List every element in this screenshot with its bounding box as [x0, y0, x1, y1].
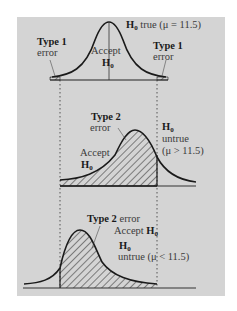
h0-subscript: 0	[155, 230, 159, 238]
type1-left-label: Type 1	[37, 36, 67, 47]
h0-subscript: 0	[110, 62, 114, 70]
top-title-condition: true (μ = 11.5)	[138, 19, 201, 30]
type1-right-error: error	[153, 51, 173, 62]
h0-symbol: H	[81, 159, 89, 170]
bottom-type2-label: Type 2 error	[87, 213, 140, 224]
h0-symbol: H	[162, 121, 170, 132]
bottom-accept-label: Accept H0	[114, 225, 158, 240]
middle-condition: (μ > 11.5)	[162, 145, 204, 156]
bottom-untrue-condition: untrue (μ < 11.5)	[118, 251, 189, 262]
type2-error: error	[117, 213, 140, 224]
type2-bold: Type 2	[87, 213, 117, 224]
middle-type2-error: error	[90, 122, 110, 133]
type1-left-error: error	[37, 47, 57, 58]
middle-untrue: untrue	[162, 133, 189, 144]
h0-symbol: H	[126, 19, 134, 30]
h0-symbol: H	[119, 240, 127, 251]
middle-accept-label: Accept	[80, 147, 110, 158]
h0-symbol: H	[146, 225, 154, 236]
type1-right-label: Type 1	[153, 40, 183, 51]
top-accept-h0: H0	[102, 57, 114, 72]
top-accept-label: Accept	[91, 45, 121, 56]
h0-subscript: 0	[89, 164, 93, 172]
accept-text: Accept	[114, 225, 146, 236]
condition-text: (μ < 11.5)	[147, 251, 189, 262]
untrue-text: untrue	[118, 251, 145, 262]
middle-type2-label: Type 2	[91, 111, 121, 122]
h0-symbol: H	[102, 57, 110, 68]
top-title: H0 true (μ = 11.5)	[126, 19, 201, 34]
middle-accept-h0: H0	[81, 159, 93, 174]
